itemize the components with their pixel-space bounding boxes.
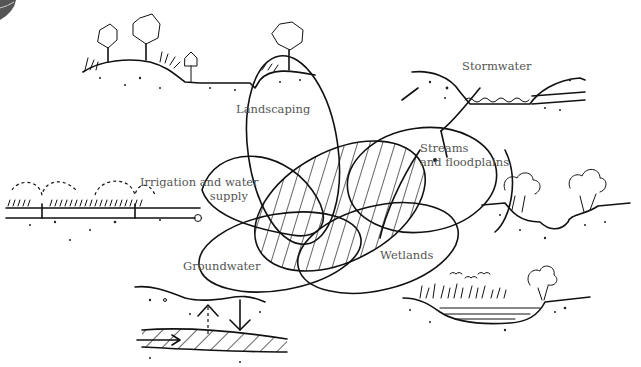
groundwater-scene <box>135 287 287 363</box>
label-landscaping: Landscaping <box>236 102 310 116</box>
corner-globe-icon <box>0 0 16 20</box>
stormwater-scene <box>402 72 585 111</box>
streams-scene <box>482 169 630 239</box>
label-irrigation-line2: supply <box>140 189 248 203</box>
landscaping-scene <box>83 14 315 91</box>
label-irrigation: Irrigation and water supply <box>140 175 248 203</box>
label-streams: Streams and floodplains <box>420 141 509 169</box>
diagram-canvas: Landscaping Stormwater Streams and flood… <box>0 0 641 367</box>
label-wetlands: Wetlands <box>380 248 434 262</box>
label-irrigation-line1: Irrigation and water <box>140 175 248 189</box>
label-streams-line1: Streams <box>420 141 509 155</box>
label-stormwater: Stormwater <box>462 59 531 73</box>
diagram-illustration <box>0 0 641 367</box>
wetlands-scene <box>403 266 590 331</box>
label-streams-line2: and floodplains <box>420 155 509 169</box>
label-groundwater: Groundwater <box>183 259 260 273</box>
